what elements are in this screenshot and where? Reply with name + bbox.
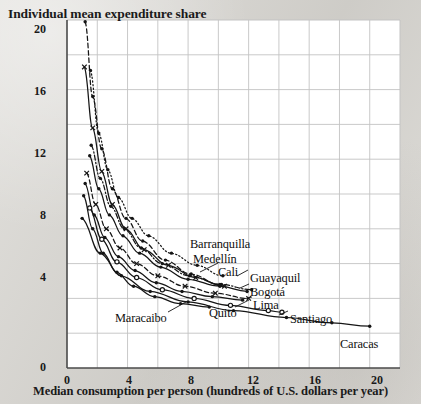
series-marker bbox=[218, 285, 221, 288]
series-marker bbox=[80, 217, 83, 220]
series-marker bbox=[83, 182, 86, 185]
series-marker bbox=[111, 187, 114, 190]
series-marker bbox=[211, 295, 214, 298]
series-marker bbox=[147, 234, 150, 237]
y-tick-12: 12 bbox=[10, 146, 46, 161]
series-marker bbox=[186, 300, 189, 303]
series-marker bbox=[245, 290, 248, 293]
series-marker bbox=[186, 278, 189, 281]
series-marker bbox=[100, 147, 103, 150]
figure-container: Individual mean expenditure share 20 16 … bbox=[0, 0, 421, 404]
series-marker bbox=[188, 274, 191, 277]
series-marker bbox=[97, 187, 100, 190]
series-marker bbox=[88, 154, 91, 157]
series-marker bbox=[132, 285, 135, 288]
series-marker bbox=[117, 255, 120, 258]
series-marker bbox=[192, 296, 196, 300]
city-label-guayaquil: Guayaquil bbox=[250, 271, 300, 286]
city-label-santiago: Santiago bbox=[290, 312, 332, 327]
series-marker bbox=[121, 234, 124, 237]
series-marker bbox=[170, 251, 173, 254]
series-marker bbox=[155, 281, 158, 284]
city-label-maracaibo: Maracaibo bbox=[115, 311, 167, 326]
series-marker bbox=[115, 260, 119, 264]
city-label-quito: Quito bbox=[209, 306, 236, 321]
y-tick-20: 20 bbox=[10, 22, 46, 37]
y-tick-0: 0 bbox=[10, 360, 46, 375]
chart-title: Individual mean expenditure share bbox=[8, 6, 206, 22]
series-marker bbox=[141, 239, 144, 242]
series-marker bbox=[99, 177, 102, 180]
series-marker bbox=[164, 258, 167, 261]
series-marker bbox=[124, 217, 127, 220]
series-marker bbox=[99, 251, 102, 254]
series-marker bbox=[90, 144, 93, 147]
series-marker bbox=[123, 227, 126, 230]
city-label-caracas: Caracas bbox=[340, 337, 378, 352]
series-marker bbox=[91, 95, 94, 98]
series-marker bbox=[109, 204, 112, 207]
y-tick-4: 4 bbox=[10, 270, 46, 285]
series-marker bbox=[135, 275, 139, 279]
series-marker bbox=[100, 237, 104, 241]
series-marker bbox=[82, 194, 85, 197]
y-tick-16: 16 bbox=[10, 84, 46, 99]
x-axis-label: Median consumption per person (hundreds … bbox=[0, 384, 421, 399]
series-marker bbox=[138, 251, 141, 254]
series-marker bbox=[285, 316, 288, 319]
city-label-lima: Lima bbox=[253, 298, 279, 313]
series-marker bbox=[159, 265, 162, 268]
series-marker bbox=[149, 290, 152, 293]
series-marker bbox=[88, 206, 92, 210]
series-marker bbox=[133, 269, 136, 272]
series-marker bbox=[153, 295, 156, 298]
series-marker bbox=[130, 217, 133, 220]
city-label-cali: Cali bbox=[218, 265, 238, 280]
series-marker bbox=[139, 246, 142, 249]
series-marker bbox=[160, 288, 164, 292]
series-marker bbox=[91, 227, 94, 230]
series-marker bbox=[120, 274, 123, 277]
city-label-barranquilla: Barranquilla bbox=[190, 237, 250, 252]
series-marker bbox=[368, 325, 371, 328]
series-marker bbox=[108, 213, 111, 216]
series-marker bbox=[161, 262, 164, 265]
y-tick-8: 8 bbox=[10, 208, 46, 223]
series-marker bbox=[180, 290, 183, 293]
